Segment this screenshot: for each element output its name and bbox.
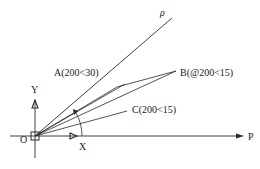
rho-label: ρ: [159, 7, 165, 18]
y-axis-label: Y: [31, 84, 38, 95]
p-axis-arrow-icon: [236, 134, 244, 139]
p-axis-label: P: [248, 131, 254, 142]
point-b-label: B(@200<15): [180, 67, 233, 79]
x-axis-label: X: [79, 141, 87, 152]
point-a-label: A(200<30): [54, 67, 99, 79]
origin-label: O: [20, 134, 27, 145]
point-c-label: C(200<15): [132, 104, 176, 116]
polar-coordinate-diagram: P Y X O ρ A(200<30) B(@200<15) C(200<15): [0, 0, 260, 169]
